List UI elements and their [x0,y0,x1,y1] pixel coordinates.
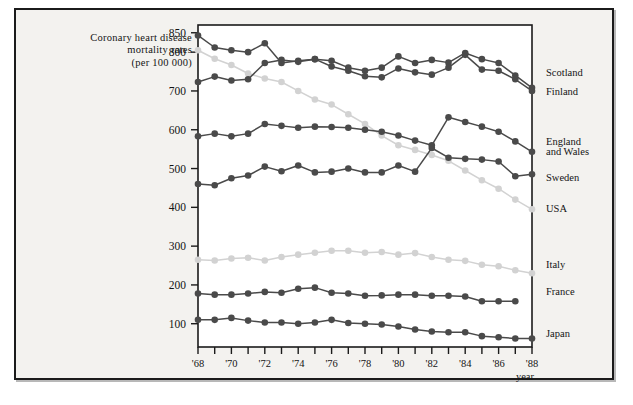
data-point [412,326,419,333]
data-point [462,293,469,300]
data-point [495,158,502,165]
data-point [512,267,519,274]
data-point [378,74,385,81]
data-point [228,77,235,84]
data-point [479,298,486,305]
y-tick-label: 500 [169,163,187,175]
data-point [195,181,202,188]
data-point [228,315,235,322]
x-tick-label: '76 [325,358,337,369]
data-point [328,57,335,64]
data-point [328,247,335,254]
data-point [195,290,202,297]
data-point [479,333,486,340]
x-axis-name-label: year [516,371,535,382]
data-point [262,319,269,326]
data-point [378,292,385,299]
data-point [345,165,352,172]
data-point [211,44,218,51]
data-point [479,123,486,130]
data-point [512,173,519,180]
data-point [245,317,252,324]
data-point [245,290,252,297]
data-point [278,289,285,296]
data-point [278,319,285,326]
data-point [495,67,502,74]
x-tick-label: '70 [225,358,237,369]
data-point [495,334,502,341]
x-axis-name: year [516,371,535,382]
data-point [429,254,436,261]
data-point [245,70,252,77]
y-tick-label: 600 [169,124,187,136]
data-point [412,168,419,175]
data-point [512,196,519,203]
y-axis-ticks: 100200300400500600700800850 [169,27,198,330]
data-point [462,119,469,126]
data-point [345,67,352,74]
data-point [512,335,519,342]
chart-panel: Coronary heart disease mortality rates (… [14,8,614,380]
data-point [262,289,269,296]
data-point [445,114,452,121]
data-point [479,66,486,73]
data-point [462,156,469,163]
data-point [529,335,536,342]
data-point [495,298,502,305]
data-point [529,206,536,213]
x-tick-label: '80 [392,358,404,369]
data-point [479,56,486,63]
data-point [228,175,235,182]
data-point [412,137,419,144]
y-tick-label: 800 [169,46,187,58]
data-point [395,251,402,258]
data-point [295,251,302,258]
data-point [262,163,269,170]
data-point [278,168,285,175]
data-point [211,257,218,264]
data-point [429,71,436,78]
data-point [211,291,218,298]
data-point [429,57,436,64]
data-point [412,291,419,298]
data-point [362,73,369,80]
legend-label: England [546,136,582,147]
data-point [295,59,302,66]
data-point [295,162,302,169]
data-point [479,261,486,268]
data-point [195,256,202,263]
data-point [345,247,352,254]
plot-area: 100200300400500600700800850 '68'70'72'74… [16,10,616,382]
data-point [295,88,302,95]
data-point [312,169,319,176]
data-point [495,128,502,135]
data-point [529,88,536,95]
data-point [362,249,369,256]
data-point [445,329,452,336]
data-point [412,147,419,154]
data-point [245,76,252,83]
legend-label: Scotland [546,67,583,78]
x-tick-label: '72 [259,358,271,369]
data-point [479,177,486,184]
y-tick-label: 300 [169,240,187,252]
data-point [395,132,402,139]
data-point [262,75,269,82]
data-point [278,123,285,130]
legend-label: France [546,286,575,297]
data-point [429,328,436,335]
legend-label: Japan [546,328,571,339]
data-point [228,133,235,140]
data-point [429,152,436,159]
data-point [445,256,452,263]
data-point [445,64,452,71]
legend: ScotlandFinlandEnglandand WalesSwedenUSA… [546,67,589,339]
data-point [378,249,385,256]
data-point [211,182,218,189]
data-point [211,55,218,62]
data-point [328,289,335,296]
data-point [378,169,385,176]
data-point [245,172,252,179]
data-point [312,56,319,63]
data-point [312,319,319,326]
